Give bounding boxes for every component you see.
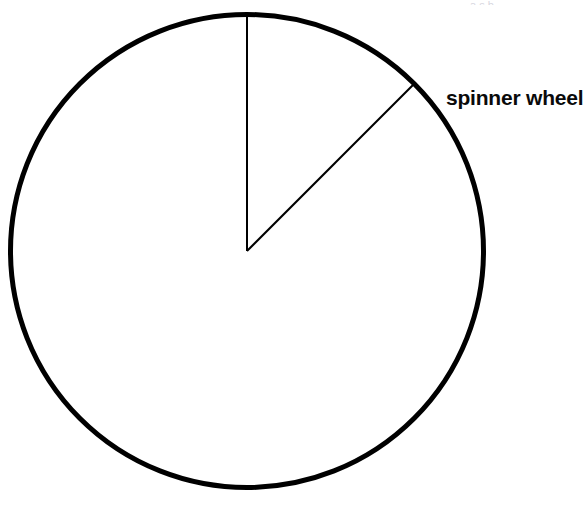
spinner-wheel-figure (0, 0, 583, 507)
spinner-wheel-label: spinner wheel (446, 86, 583, 110)
top-edge-text-sliver: a s b (470, 0, 565, 5)
